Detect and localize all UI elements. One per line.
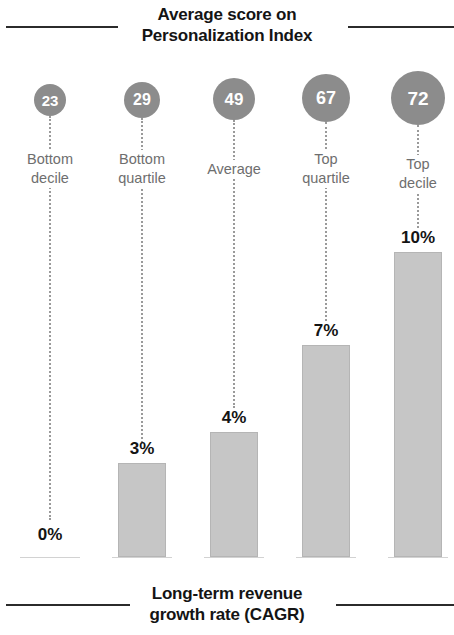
category-label-line2: quartile [280, 169, 372, 188]
score-bubble: 29 [124, 82, 160, 118]
category-label-line1: Top [372, 155, 454, 174]
bar-value-label: 4% [188, 408, 280, 428]
category-label-line2: decile [372, 174, 454, 193]
score-bubble-value: 23 [42, 93, 59, 108]
bottom-axis-title: Long-term revenue growth rate (CAGR) [0, 583, 454, 625]
chart-column-bottom-decile: 23 Bottom decile 0% [4, 0, 96, 635]
category-label: Top quartile [280, 150, 372, 188]
bar [394, 252, 442, 557]
bottom-axis-title-line2: growth rate (CAGR) [0, 604, 454, 625]
bar-value-label: 7% [280, 321, 372, 341]
chart-column-bottom-quartile: 29 Bottom quartile 3% [96, 0, 188, 635]
chart-column-top-quartile: 67 Top quartile 7% [280, 0, 372, 635]
bottom-header: Long-term revenue growth rate (CAGR) [0, 580, 454, 635]
score-bubble: 49 [213, 78, 255, 120]
category-label-line1: Average [188, 160, 280, 179]
category-label: Top decile [372, 155, 454, 193]
bottom-axis-title-line1: Long-term revenue [0, 583, 454, 604]
score-bubble-value: 29 [133, 92, 151, 108]
score-bubble-value: 67 [316, 89, 336, 107]
bar-value-label: 10% [372, 228, 454, 248]
bar [302, 345, 350, 557]
baseline-tick [112, 557, 172, 558]
score-bubble-value: 72 [407, 89, 428, 108]
chart-column-top-decile: 72 Top decile 10% [372, 0, 454, 635]
baseline-tick [296, 557, 356, 558]
baseline-tick [388, 557, 448, 558]
score-bubble: 72 [391, 71, 445, 125]
category-label: Average [188, 160, 280, 179]
category-label: Bottom quartile [96, 150, 188, 188]
category-label-line1: Top [280, 150, 372, 169]
bar-value-label: 3% [96, 439, 188, 459]
category-label: Bottom decile [4, 150, 96, 188]
bar [118, 463, 166, 557]
chart-plot-area: 23 Bottom decile 0% 29 Bottom quartile 3… [0, 0, 454, 635]
score-bubble: 67 [302, 74, 350, 122]
bar-value-label: 0% [4, 525, 96, 545]
category-label-line2: decile [4, 169, 96, 188]
baseline-tick [204, 557, 264, 558]
category-label-line1: Bottom [96, 150, 188, 169]
score-bubble-value: 49 [225, 91, 244, 108]
category-label-line2: quartile [96, 169, 188, 188]
chart-column-average: 49 Average 4% [188, 0, 280, 635]
category-label-line1: Bottom [4, 150, 96, 169]
score-bubble: 23 [34, 84, 66, 116]
baseline-tick [20, 557, 80, 558]
bar [210, 432, 258, 557]
